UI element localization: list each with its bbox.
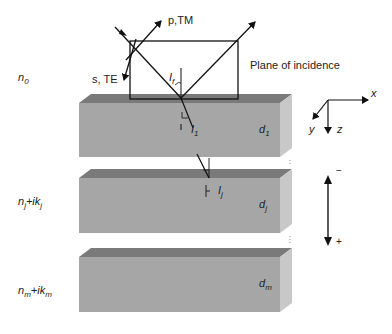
direction-minus-label: −	[336, 166, 342, 176]
substrate-index-label: nm+ikm	[18, 285, 52, 299]
plane-of-incidence-label: Plane of incidence	[250, 60, 340, 71]
layer1-angle-label: I1	[191, 124, 199, 138]
thickness-dm-label: dm	[259, 278, 272, 292]
thickness-dj-label: dj	[259, 199, 267, 213]
direction-arrow	[324, 175, 332, 246]
axis-z-label: z	[337, 124, 343, 135]
s-te-label: s, TE	[92, 74, 117, 85]
reflected-ray	[181, 22, 255, 98]
layerj-angle-label: Ij	[218, 185, 223, 199]
direction-plus-label: +	[336, 237, 342, 247]
plane-of-incidence	[130, 41, 238, 99]
thickness-d1-label: d1	[259, 124, 270, 138]
diagram-canvas	[0, 0, 392, 334]
incident-ray	[115, 27, 181, 98]
ambient-index-label: n0	[18, 72, 29, 86]
axis-y-label: y	[309, 124, 315, 135]
incident-angle-label: If	[169, 72, 174, 86]
p-tm-label: p,TM	[168, 15, 193, 26]
axis-x-label: x	[371, 88, 377, 99]
layer-j-index-label: nj+ikj	[18, 196, 42, 210]
